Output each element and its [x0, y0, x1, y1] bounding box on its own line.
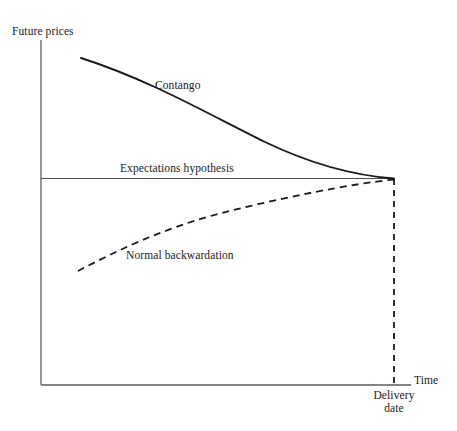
expectations-hypothesis-label: Expectations hypothesis [120, 162, 234, 175]
x-axis-label: Time [414, 374, 438, 387]
chart-canvas [0, 0, 457, 431]
delivery-date-line-2: date [360, 402, 428, 415]
normal-backwardation-label: Normal backwardation [126, 249, 234, 262]
contango-label: Contango [155, 79, 201, 92]
delivery-date-line-1: Delivery [360, 389, 428, 402]
futures-price-convergence-chart: Future prices Contango Expectations hypo… [0, 0, 457, 431]
contango-curve [81, 58, 394, 179]
y-axis-label: Future prices [12, 25, 74, 38]
delivery-date-label: Delivery date [360, 389, 428, 415]
